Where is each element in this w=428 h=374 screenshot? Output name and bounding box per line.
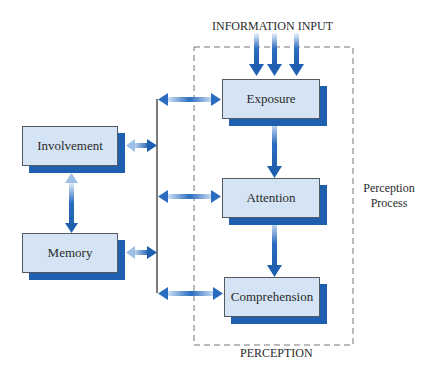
double-arrow-icon [158,93,221,106]
memory-box: Memory [22,233,118,273]
input-arrow-icon [249,33,264,76]
double-arrow-icon [126,246,157,259]
perception-label: PERCEPTION [240,346,313,361]
exposure-label: Exposure [246,91,295,107]
attention-label: Attention [246,190,295,206]
attention-box: Attention [222,178,320,218]
comprehension-label: Comprehension [231,289,313,305]
information-input-label: INFORMATION INPUT [212,19,333,34]
double-arrow-icon [126,139,157,152]
exposure-box: Exposure [222,79,320,119]
perception-process-line2: Process [357,196,421,211]
vertical-double-arrow-icon [65,173,78,233]
perception-process-label: Perception Process [357,181,421,211]
down-arrow-icon [267,220,282,277]
perception-process-line1: Perception [357,181,421,196]
double-arrow-icon [158,190,221,203]
involvement-box: Involvement [22,126,118,166]
down-arrow-icon [267,120,282,178]
memory-label: Memory [48,245,93,261]
input-arrow-icon [289,33,304,76]
comprehension-box: Comprehension [224,277,320,317]
input-arrow-icon [267,33,282,76]
double-arrow-icon [158,287,223,300]
involvement-label: Involvement [37,138,103,154]
